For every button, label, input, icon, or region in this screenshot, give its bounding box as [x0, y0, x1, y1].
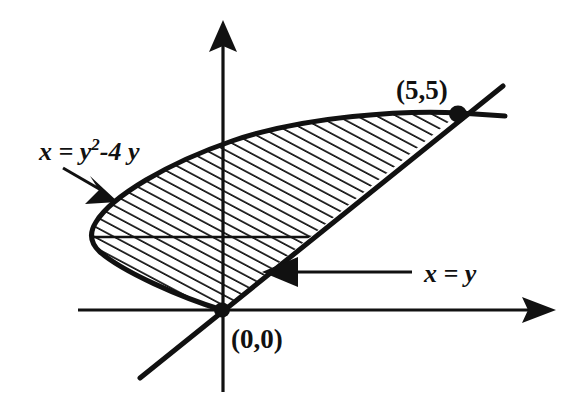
line-equation-label: x = y: [423, 259, 477, 288]
x-axis: [78, 297, 556, 323]
parabola-label-leader: [63, 168, 118, 204]
parabola-leader-arrowhead: [85, 176, 118, 204]
figure-container: (0,0) (5,5) x = y2-4 y x = y: [0, 0, 573, 404]
origin-point-dot: [214, 303, 230, 318]
math-figure-svg: (0,0) (5,5) x = y2-4 y x = y: [0, 0, 573, 404]
parabola-eq-suffix: -4 y: [100, 137, 140, 166]
origin-point-label: (0,0): [231, 324, 283, 354]
parabola-equation-label: x = y2-4 y: [38, 135, 140, 166]
intersection-point-label: (5,5): [396, 75, 448, 105]
svg-text:x = y2-4 y: x = y2-4 y: [38, 135, 140, 166]
parabola-eq-prefix: x = y: [38, 137, 92, 166]
intersection-point-dot: [449, 106, 467, 123]
parabola-eq-exponent: 2: [90, 135, 100, 154]
